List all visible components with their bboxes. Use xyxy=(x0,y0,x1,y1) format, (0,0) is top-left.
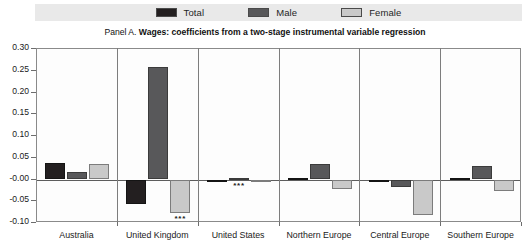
y-tick-label: -0.10 xyxy=(0,216,29,226)
x-tick-mark xyxy=(198,222,199,226)
bar-male-central-europe xyxy=(391,180,411,188)
group-separator xyxy=(359,48,360,222)
bar-total-central-europe xyxy=(369,180,389,182)
bar-total-australia xyxy=(45,163,65,180)
legend-label-male: Male xyxy=(276,7,297,18)
legend-entry-total: Total xyxy=(156,7,205,18)
panel-title: Panel A. Wages: coefficients from a two-… xyxy=(0,27,530,37)
legend-entry-female: Female xyxy=(341,7,401,18)
bar-male-northern-europe xyxy=(310,164,330,179)
x-category-label-southern-europe: Southern Europe xyxy=(440,230,521,240)
x-category-label-united-kingdom: United Kingdom xyxy=(117,230,198,240)
bar-male-united-states xyxy=(229,178,249,180)
bar-female-northern-europe xyxy=(332,180,352,189)
group-separator xyxy=(279,48,280,222)
y-tick-mark xyxy=(31,222,36,223)
bar-male-australia xyxy=(67,172,87,179)
group-separator xyxy=(198,48,199,222)
x-tick-mark xyxy=(117,222,118,226)
legend-label-female: Female xyxy=(369,7,401,18)
x-tick-mark xyxy=(440,222,441,226)
bar-female-united-kingdom xyxy=(170,180,190,213)
x-tick-mark xyxy=(279,222,280,226)
bar-total-northern-europe xyxy=(288,178,308,180)
legend-entry-male: Male xyxy=(248,7,297,18)
y-tick-label: 0.05 xyxy=(0,151,29,161)
significance-stars: *** xyxy=(170,214,190,223)
bar-total-southern-europe xyxy=(450,178,470,180)
bar-male-southern-europe xyxy=(472,166,492,179)
bar-female-united-states xyxy=(251,180,271,182)
x-category-label-central-europe: Central Europe xyxy=(359,230,440,240)
bar-female-southern-europe xyxy=(494,180,514,191)
y-tick-label: 0.20 xyxy=(0,86,29,96)
y-tick-label: -0.00 xyxy=(0,173,29,183)
x-tick-mark xyxy=(359,222,360,226)
bar-female-central-europe xyxy=(413,180,433,216)
group-separator xyxy=(440,48,441,222)
x-category-label-australia: Australia xyxy=(36,230,117,240)
bar-female-australia xyxy=(89,164,109,179)
y-tick-label: 0.10 xyxy=(0,129,29,139)
x-tick-mark xyxy=(521,222,522,226)
panel-title-strong: Wages: coefficients from a two-stage ins… xyxy=(139,27,426,37)
panel-title-prefix: Panel A. xyxy=(104,27,136,37)
bar-total-united-states xyxy=(207,180,227,182)
bar-total-united-kingdom xyxy=(126,180,146,204)
legend-swatch-female xyxy=(341,8,362,17)
legend-label-total: Total xyxy=(184,7,205,18)
y-tick-label: 0.15 xyxy=(0,107,29,117)
chart-legend: Total Male Female xyxy=(35,4,522,21)
bar-male-united-kingdom xyxy=(148,67,168,179)
y-tick-label: 0.30 xyxy=(0,42,29,52)
x-category-label-united-states: United States xyxy=(198,230,279,240)
x-category-label-northern-europe: Northern Europe xyxy=(279,230,360,240)
y-tick-label: -0.05 xyxy=(0,194,29,204)
legend-swatch-total xyxy=(156,8,177,17)
y-tick-label: 0.25 xyxy=(0,64,29,74)
group-separator xyxy=(117,48,118,222)
significance-stars: *** xyxy=(229,181,249,190)
legend-swatch-male xyxy=(248,8,269,17)
